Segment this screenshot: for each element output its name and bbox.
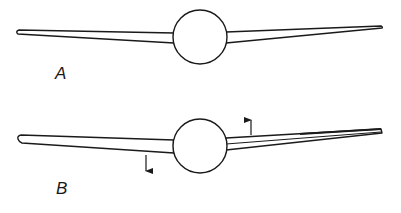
blade-right-b <box>226 129 382 150</box>
hub-a <box>173 10 227 64</box>
panel-label-b: B <box>56 180 67 197</box>
hub-b <box>173 119 227 173</box>
blade-left-b <box>18 135 174 153</box>
panel-a <box>17 10 383 64</box>
panel-b <box>18 119 382 173</box>
panel-label-a: A <box>55 65 66 82</box>
blade-left-a <box>17 30 174 43</box>
blade-right-a <box>226 26 382 43</box>
